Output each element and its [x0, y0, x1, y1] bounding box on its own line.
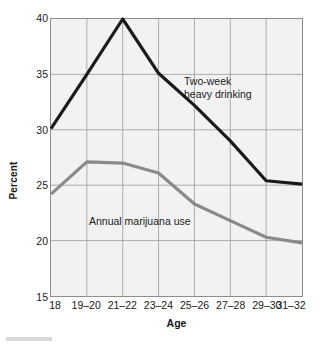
y-axis-title-text: Percent	[8, 161, 19, 199]
y-axis-title: Percent	[2, 135, 24, 225]
x-axis-ticks: 1819–2021–2223–2425–2627–2829–3031–32	[50, 299, 303, 315]
annotation-two-week-heavy-drinking: Two-week heavy drinking	[184, 75, 252, 101]
plot-svg	[51, 19, 302, 296]
x-tick-label: 31–32	[276, 299, 305, 311]
plot-area	[50, 18, 303, 297]
y-tick-label: 40	[26, 12, 48, 24]
y-tick-label: 35	[26, 68, 48, 80]
x-tick-label: 27–28	[216, 299, 245, 311]
chart-figure: Percent 152025303540 Two-week heavy drin…	[0, 0, 335, 344]
scan-artifact-mark	[6, 337, 52, 341]
x-tick-label: 21–22	[108, 299, 137, 311]
y-tick-label: 25	[26, 179, 48, 191]
y-tick-label: 30	[26, 124, 48, 136]
series-line	[51, 19, 302, 184]
x-tick-label: 18	[49, 299, 61, 311]
vertical-gridlines	[87, 19, 266, 296]
x-axis-title: Age	[50, 317, 303, 329]
y-axis-ticks: 152025303540	[22, 0, 48, 344]
x-tick-label: 19–20	[72, 299, 101, 311]
x-tick-label: 23–24	[144, 299, 173, 311]
series-lines	[51, 19, 302, 243]
annotation-annual-marijuana-use: Annual marijuana use	[89, 215, 191, 228]
y-tick-label: 15	[26, 291, 48, 303]
y-tick-label: 20	[26, 235, 48, 247]
series-line	[51, 162, 302, 243]
x-tick-label: 25–26	[180, 299, 209, 311]
